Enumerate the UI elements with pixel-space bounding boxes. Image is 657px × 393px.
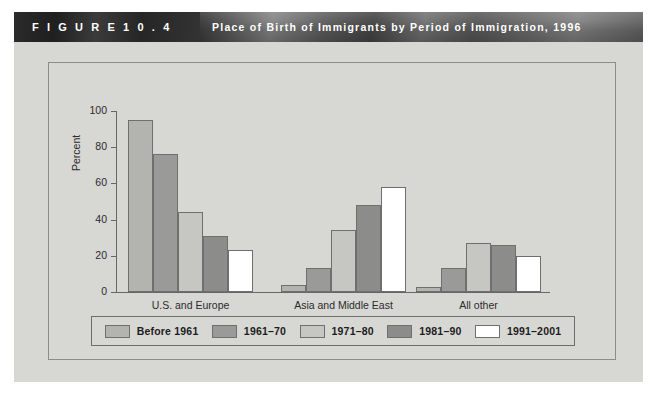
legend-label: 1971–80 bbox=[332, 325, 374, 337]
bar bbox=[153, 154, 178, 292]
bar bbox=[466, 243, 491, 292]
bar bbox=[128, 120, 153, 292]
legend-item: 1991–2001 bbox=[475, 325, 561, 338]
y-axis-tick-mark bbox=[111, 147, 116, 148]
x-axis-category-label: Asia and Middle East bbox=[281, 299, 406, 311]
legend-swatch bbox=[105, 325, 130, 338]
figure-number-label: F I G U R E 1 0 . 4 bbox=[32, 20, 172, 34]
y-axis-tick-label: 0 bbox=[101, 285, 107, 297]
bar-group: All other bbox=[416, 111, 541, 292]
y-axis-tick-mark bbox=[111, 183, 116, 184]
bar bbox=[381, 187, 406, 292]
bar bbox=[178, 212, 203, 292]
plot-area: Percent 020406080100 U.S. and EuropeAsia… bbox=[116, 111, 550, 292]
bar bbox=[228, 250, 253, 292]
bar bbox=[416, 287, 441, 292]
legend-item: 1971–80 bbox=[300, 325, 374, 338]
legend-item: 1981–90 bbox=[387, 325, 461, 338]
y-axis-tick-label: 100 bbox=[89, 104, 107, 116]
bar bbox=[281, 285, 306, 292]
x-axis-line bbox=[116, 292, 550, 293]
bar bbox=[356, 205, 381, 292]
legend-item: Before 1961 bbox=[105, 325, 199, 338]
y-axis-tick-mark bbox=[111, 220, 116, 221]
y-axis-tick-label: 60 bbox=[95, 176, 107, 188]
y-axis-tick-mark bbox=[111, 256, 116, 257]
chart-legend: Before 19611961–701971–801981–901991–200… bbox=[91, 316, 575, 346]
figure-title: Place of Birth of Immigrants by Period o… bbox=[212, 21, 582, 34]
bar-group: Asia and Middle East bbox=[281, 111, 406, 292]
bar bbox=[203, 236, 228, 292]
legend-swatch bbox=[212, 325, 237, 338]
legend-swatch bbox=[387, 325, 412, 338]
bar bbox=[331, 230, 356, 292]
legend-label: Before 1961 bbox=[137, 325, 199, 337]
bar bbox=[441, 268, 466, 292]
legend-item: 1961–70 bbox=[212, 325, 286, 338]
legend-swatch bbox=[300, 325, 325, 338]
chart-frame: Percent 020406080100 U.S. and EuropeAsia… bbox=[48, 62, 616, 360]
x-axis-category-label: All other bbox=[416, 299, 541, 311]
bar bbox=[306, 268, 331, 292]
legend-label: 1961–70 bbox=[244, 325, 286, 337]
x-axis-category-label: U.S. and Europe bbox=[128, 299, 253, 311]
legend-label: 1991–2001 bbox=[507, 325, 561, 337]
y-axis-tick-label: 80 bbox=[95, 140, 107, 152]
y-axis-tick-mark bbox=[111, 111, 116, 112]
y-axis-tick-mark bbox=[111, 292, 116, 293]
bar-group: U.S. and Europe bbox=[128, 111, 253, 292]
bar bbox=[491, 245, 516, 292]
y-axis-tick-label: 40 bbox=[95, 213, 107, 225]
figure-banner: F I G U R E 1 0 . 4 Place of Birth of Im… bbox=[14, 12, 643, 42]
y-axis-line bbox=[116, 111, 117, 293]
y-axis-title: Percent bbox=[70, 135, 82, 171]
legend-swatch bbox=[475, 325, 500, 338]
legend-label: 1981–90 bbox=[419, 325, 461, 337]
y-axis-tick-label: 20 bbox=[95, 249, 107, 261]
bar bbox=[516, 256, 541, 292]
figure-root: F I G U R E 1 0 . 4 Place of Birth of Im… bbox=[0, 0, 657, 393]
